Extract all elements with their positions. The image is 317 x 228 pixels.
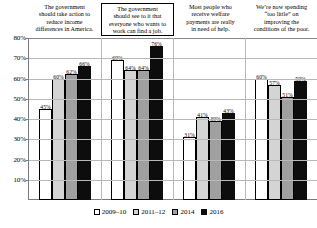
- bar-value-label: 62%: [66, 69, 76, 75]
- bar-value-label: 45%: [40, 103, 50, 109]
- group-divider: [245, 38, 246, 200]
- legend-label: 2009–10: [102, 208, 127, 216]
- bar-rect-2009–10: 45%: [39, 109, 52, 200]
- category-header-3: We’re now spending “too little” on impro…: [246, 0, 317, 38]
- category-header-2-line-2: payments are really: [186, 18, 234, 25]
- bar-2-1[interactable]: 41%: [196, 117, 209, 200]
- legend-item-0[interactable]: 2009–10: [94, 208, 127, 216]
- chart-legend: 2009–102011–1220142016: [0, 208, 317, 216]
- legend-swatch-icon: [94, 209, 100, 215]
- group-divider: [101, 38, 102, 200]
- category-header-2-line-1: receive welfare: [186, 10, 234, 17]
- category-header-3-line-0: We’re now spending: [254, 3, 310, 10]
- bar-value-label: 41%: [197, 111, 207, 117]
- category-header-3-line-1: “too little” on: [254, 10, 310, 17]
- category-header-0-line-1: should take action to: [36, 10, 94, 17]
- bar-0-0[interactable]: 45%: [39, 109, 52, 200]
- y-axis: 80%70%60%50%40%30%20%10%: [0, 38, 29, 200]
- category-header-0-line-0: The government: [36, 3, 94, 10]
- bar-value-label: 57%: [269, 79, 279, 85]
- bar-rect-2014: 51%: [281, 97, 294, 200]
- category-header-2-line-0: Most people who: [186, 3, 234, 10]
- bar-value-label: 43%: [223, 107, 233, 113]
- category-header-1-line-2: everyone who wants to: [109, 20, 166, 27]
- bar-2-2[interactable]: 39%: [209, 121, 222, 200]
- y-axis-tick-label: 30%: [13, 136, 26, 143]
- bar-value-label: 66%: [79, 61, 89, 67]
- bar-value-label: 51%: [282, 91, 292, 97]
- plot-area: 45%60%62%66%69%64%64%76%31%41%39%43%60%5…: [29, 38, 317, 200]
- category-header-3-line-2: improving the: [254, 18, 310, 25]
- y-axis-tick-label: 20%: [13, 156, 26, 163]
- category-header-2: Most people who receive welfare payments…: [175, 0, 246, 38]
- bar-2-0[interactable]: 31%: [183, 137, 196, 200]
- bar-1-3[interactable]: 76%: [150, 46, 163, 200]
- category-header-3-line-3: conditions of the poor.: [254, 25, 310, 32]
- category-header-0-line-2: reduce income: [36, 18, 94, 25]
- category-header-0: The government should take action to red…: [29, 0, 100, 38]
- bar-rect-2009–10: 31%: [183, 137, 196, 200]
- bar-rect-2011–12: 41%: [196, 117, 209, 200]
- legend-label: 2014: [180, 208, 194, 216]
- bar-rect-2014: 39%: [209, 121, 222, 200]
- bar-value-label: 64%: [138, 65, 148, 71]
- legend-label: 2016: [209, 208, 223, 216]
- category-header-2-line-3: in need of help.: [186, 25, 234, 32]
- legend-item-2[interactable]: 2014: [172, 208, 194, 216]
- y-axis-tick-label: 60%: [13, 75, 26, 82]
- legend-swatch-icon: [133, 209, 139, 215]
- y-axis-tick-label: 70%: [13, 55, 26, 62]
- legend-swatch-icon: [172, 209, 178, 215]
- bar-rect-2016: 43%: [222, 113, 235, 200]
- y-axis-tick-label: 40%: [13, 116, 26, 123]
- bar-rect-2016: 76%: [150, 46, 163, 200]
- bar-value-label: 76%: [151, 41, 161, 47]
- category-header-1-line-3: work can find a job.: [109, 27, 166, 34]
- group-divider: [173, 38, 174, 200]
- category-header-1-line-1: should see to it that: [109, 12, 166, 19]
- category-header-1-line-0: The government: [109, 5, 166, 12]
- category-headers: The government should take action to red…: [29, 0, 317, 38]
- legend-item-3[interactable]: 2016: [201, 208, 223, 216]
- bar-value-label: 31%: [184, 132, 194, 138]
- y-axis-tick-label: 80%: [13, 35, 26, 42]
- bar-2-3[interactable]: 43%: [222, 113, 235, 200]
- bar-chart: The government should take action to red…: [0, 0, 317, 228]
- y-axis-tick-label: 10%: [13, 176, 26, 183]
- y-axis-tick-label: 50%: [13, 95, 26, 102]
- legend-item-1[interactable]: 2011–12: [133, 208, 165, 216]
- bar-3-1[interactable]: 57%: [268, 85, 281, 200]
- category-header-1: The government should see to it that eve…: [101, 3, 174, 36]
- bar-rect-2014: 62%: [65, 74, 78, 200]
- bar-3-2[interactable]: 51%: [281, 97, 294, 200]
- bar-value-label: 64%: [125, 65, 135, 71]
- bar-0-2[interactable]: 62%: [65, 74, 78, 200]
- bar-rect-2011–12: 57%: [268, 85, 281, 200]
- legend-label: 2011–12: [141, 208, 165, 216]
- category-header-0-line-3: differences in America.: [36, 25, 94, 32]
- legend-swatch-icon: [201, 209, 207, 215]
